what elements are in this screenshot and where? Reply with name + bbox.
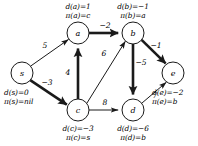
edge-weight-b-d: −5	[135, 58, 146, 67]
node-label-c: c	[76, 106, 80, 115]
node-label-d: d	[130, 106, 135, 115]
annotation-c: d(c)=−3 π(c)=s	[62, 124, 93, 142]
annotation-a-d: d(a)=1	[65, 2, 90, 11]
edge-weight-b-e: −1	[150, 41, 161, 50]
annotation-b-pi: π(b)=a	[117, 11, 149, 20]
annotation-s-pi: π(s)=nil	[4, 97, 33, 106]
edge-weight-s-c: −3	[41, 78, 52, 87]
edge-weight-c-d: 8	[103, 98, 108, 107]
annotation-d: d(d)=−6 π(d)=b	[117, 124, 149, 142]
annotation-s: d(s)=0 π(s)=nil	[4, 88, 33, 106]
annotation-b: d(b)=−1 π(b)=a	[117, 2, 149, 20]
node-label-e: e	[171, 69, 176, 78]
annotation-s-d: d(s)=0	[4, 88, 33, 97]
annotation-c-d: d(c)=−3	[62, 124, 93, 133]
annotation-d-d: d(d)=−6	[117, 124, 149, 133]
annotation-e-d: d(e)=−2	[152, 88, 183, 97]
edge-s-a	[31, 39, 69, 66]
edge-weight-a-b: −2	[99, 21, 110, 30]
edge-weight-c-b: 6	[102, 49, 107, 58]
edge-weight-s-a: 5	[43, 41, 48, 50]
annotation-d-pi: π(d)=b	[117, 133, 149, 142]
node-label-s: s	[20, 69, 24, 78]
node-label-a: a	[76, 29, 81, 38]
edge-weight-c-a: 4	[66, 68, 71, 77]
edge-layer	[30, 33, 166, 110]
annotation-e: d(e)=−2 π(e)=b	[152, 88, 183, 106]
annotation-a: d(a)=1 π(a)=c	[65, 2, 90, 20]
node-label-b: b	[130, 29, 135, 38]
graph-figure: s a b c d e 5 −3 −2 4 6 −5 −1 8 7 d(s)=0…	[0, 0, 198, 146]
annotation-a-pi: π(a)=c	[65, 11, 90, 20]
annotation-c-pi: π(c)=s	[62, 133, 93, 142]
annotation-b-d: d(b)=−1	[117, 2, 149, 11]
annotation-e-pi: π(e)=b	[152, 97, 183, 106]
